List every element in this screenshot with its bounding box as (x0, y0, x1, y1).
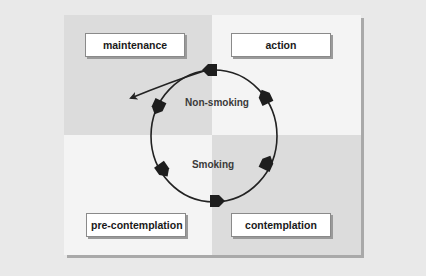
stage-box-contemplation: contemplation (231, 213, 331, 237)
stage-box-action: action (231, 33, 331, 57)
label-non-smoking: Non-smoking (185, 97, 249, 108)
stage-box-pre-contemplation: pre-contemplation (86, 213, 186, 237)
stage-box-maintenance: maintenance (85, 33, 185, 57)
label-smoking: Smoking (192, 159, 234, 170)
quadrant-contemplation (212, 135, 361, 255)
quadrant-pre-contemplation (64, 135, 212, 255)
